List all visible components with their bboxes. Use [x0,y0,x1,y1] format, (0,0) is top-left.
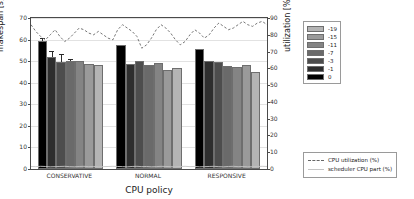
legend-label: -19 [328,26,337,32]
y-tick-label-right: 80 [270,32,290,38]
y-axis-label-right: utilization [%] [283,0,292,52]
legend-item: -11 [307,41,337,48]
legend-swatch [307,34,324,40]
plot-area: 010203040506070 0102030405060708090 [30,17,268,170]
legend-swatch [307,42,324,48]
y-tick-left [28,40,31,41]
y-tick-left [28,147,31,148]
y-tick-label-right: 90 [270,15,290,21]
legend-label: -3 [328,58,333,64]
legend-label: -15 [328,34,337,40]
plot-inner [31,18,267,169]
legend-label: 0 [328,74,332,80]
legend-item: -7 [307,49,337,56]
legend-item: 0 [307,73,337,80]
y-tick-label-right: 0 [270,166,290,172]
line-series [31,21,267,48]
legend-line-key [308,169,324,170]
y-tick-label-left: 50 [7,58,27,64]
legend-line-key [308,160,324,161]
y-tick-left [28,104,31,105]
y-tick-label-right: 10 [270,149,290,155]
legend-label: CPU utilization (%) [328,157,379,164]
legend-label: scheduler CPU part (%) [328,166,392,173]
y-tick-label-right: 70 [270,49,290,55]
bar-color-legend: -19-15-11-7-3-10 [303,21,341,84]
legend-item: -1 [307,65,337,72]
line-legend: CPU utilization (%)scheduler CPU part (%… [303,152,397,178]
x-axis-label: CPU policy [30,185,268,195]
legend-item: -19 [307,25,337,32]
legend-swatch [307,26,324,32]
y-tick-left [28,126,31,127]
y-tick-label-left: 0 [7,166,27,172]
legend-item: CPU utilization (%) [308,156,392,165]
y-tick-label-left: 60 [7,37,27,43]
y-tick-label-right: 60 [270,65,290,71]
legend-item: -3 [307,57,337,64]
y-tick-left [28,83,31,84]
legend-swatch [307,58,324,64]
legend-item: -15 [307,33,337,40]
y-axis-label-left: makespan [s] [0,0,5,52]
legend-item: scheduler CPU part (%) [308,165,392,174]
x-group-label: NORMAL [108,172,188,179]
y-tick-left [28,18,31,19]
legend-swatch [307,50,324,56]
legend-label: -1 [328,66,333,72]
legend-swatch [307,66,324,72]
legend-label: -7 [328,50,333,56]
line-series [31,166,267,167]
y-tick-label-left: 40 [7,80,27,86]
x-group-label: RESPONSIVE [187,172,267,179]
x-group-label: CONSERVATIVE [29,172,109,179]
legend-swatch [307,74,324,80]
y-tick-label-left: 20 [7,123,27,129]
y-tick-label-left: 30 [7,101,27,107]
chart-figure: makespan [s] utilization [%] CPU policy … [0,0,414,199]
line-series-container [31,18,267,169]
y-tick-label-right: 40 [270,99,290,105]
legend-label: -11 [328,42,337,48]
y-tick-label-right: 30 [270,116,290,122]
y-tick-left [28,169,31,170]
y-tick-label-right: 20 [270,132,290,138]
y-tick-label-left: 10 [7,144,27,150]
y-tick-label-left: 70 [7,15,27,21]
y-tick-label-right: 50 [270,82,290,88]
y-tick-left [28,61,31,62]
